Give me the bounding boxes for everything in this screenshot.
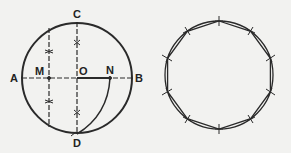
label-o: O: [79, 65, 88, 77]
decagon-circle: [165, 21, 273, 129]
decagon: [168, 21, 271, 129]
point-m: [48, 77, 51, 80]
vertex-ticks: [162, 16, 275, 134]
diagram-canvas: A B C D M O N: [0, 0, 291, 153]
label-a: A: [10, 72, 18, 84]
construction-figure: [22, 22, 132, 136]
label-b: B: [135, 72, 143, 84]
label-d: D: [73, 137, 81, 149]
label-m: M: [35, 65, 44, 77]
cross-marks: [45, 40, 80, 136]
point-n: [109, 77, 112, 80]
label-n: N: [106, 64, 114, 76]
decagon-figure: [162, 16, 275, 134]
label-c: C: [73, 8, 81, 20]
